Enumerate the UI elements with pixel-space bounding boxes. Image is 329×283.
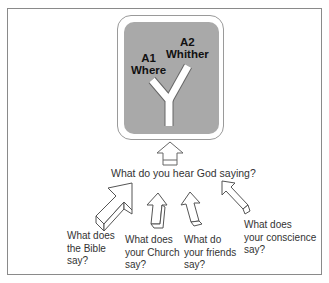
option-a2-text: Whither bbox=[166, 48, 209, 60]
church-arrow-icon bbox=[147, 193, 167, 228]
source-church: What does your Church say? bbox=[125, 234, 179, 272]
main-question: What do you hear God saying? bbox=[111, 167, 256, 179]
source-conscience-line3: say? bbox=[244, 244, 316, 257]
conscience-arrow-icon bbox=[222, 181, 250, 214]
source-conscience-line2: your conscience bbox=[244, 232, 316, 245]
friends-arrow-icon bbox=[181, 192, 202, 226]
source-church-line1: What does bbox=[125, 234, 179, 247]
source-conscience-line1: What does bbox=[244, 219, 316, 232]
source-bible-line1: What does bbox=[67, 230, 115, 243]
source-friends-line3: say? bbox=[184, 259, 236, 272]
option-a2-label: A2 Whither bbox=[166, 36, 209, 60]
option-a1-code: A1 bbox=[131, 52, 166, 64]
option-a1-text: Where bbox=[131, 64, 166, 76]
source-conscience: What does your conscience say? bbox=[244, 219, 316, 257]
source-friends-line1: What do bbox=[184, 234, 236, 247]
source-church-line3: say? bbox=[125, 259, 179, 272]
option-a1-label: A1 Where bbox=[131, 52, 166, 76]
source-bible-line3: say? bbox=[67, 255, 115, 268]
source-church-line2: your Church bbox=[125, 247, 179, 260]
option-a2-code: A2 bbox=[166, 36, 209, 48]
source-bible-line2: the Bible bbox=[67, 243, 115, 256]
up-arrow-icon bbox=[157, 142, 183, 165]
bible-arrow-icon bbox=[96, 183, 132, 231]
source-bible: What does the Bible say? bbox=[67, 230, 115, 268]
source-friends: What do your friends say? bbox=[184, 234, 236, 272]
source-friends-line2: your friends bbox=[184, 247, 236, 260]
